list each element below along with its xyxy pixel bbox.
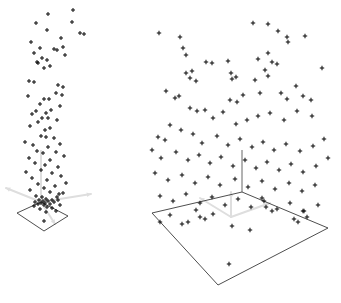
left-panel <box>6 8 91 231</box>
right-panel-ground-plane <box>152 192 328 285</box>
left-panel-data-points <box>23 8 86 223</box>
ground-plane-outline <box>152 192 328 285</box>
right-panel-data-points <box>150 21 330 266</box>
left-panel-axes <box>6 150 91 224</box>
right-panel <box>150 21 330 285</box>
scatter-plot-svg <box>0 0 341 303</box>
right-panel-axes <box>200 150 270 217</box>
figure-canvas <box>0 0 341 303</box>
